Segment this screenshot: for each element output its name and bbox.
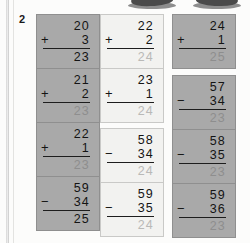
operator-sign: + [37, 141, 49, 155]
operand-bottom-row: +2 [101, 33, 156, 47]
operator-sign: − [173, 202, 185, 216]
operator-sign: + [101, 33, 113, 47]
operand-top: 23 [101, 73, 156, 87]
left-margin-rule-secondary [13, 0, 14, 243]
operand-bottom: 1 [218, 33, 226, 47]
answer-value[interactable]: 23 [173, 111, 228, 125]
operator-sign: − [101, 147, 113, 161]
problem-column-1: 20+32321+22322+12359−3425 [36, 15, 100, 231]
sum-rule [43, 102, 90, 103]
problem-cell[interactable]: 23+124 [100, 68, 164, 123]
operator-sign: − [37, 195, 49, 209]
exercise-number: 2 [19, 14, 25, 25]
operand-bottom-row: +3 [37, 33, 92, 47]
answer-value[interactable]: 23 [173, 219, 228, 233]
operand-bottom: 34 [74, 195, 90, 209]
sum-rule [179, 163, 226, 164]
sum-rule [179, 48, 226, 49]
sum-rule [107, 162, 154, 163]
answer-value[interactable]: 25 [37, 212, 92, 226]
operand-top: 21 [37, 73, 92, 87]
problem-cell[interactable]: 21+223 [36, 68, 100, 123]
operand-bottom: 1 [82, 141, 90, 155]
operand-bottom: 35 [210, 148, 226, 162]
operand-top: 58 [101, 133, 156, 147]
operand-bottom: 34 [210, 94, 226, 108]
operand-top: 59 [101, 187, 156, 201]
answer-value[interactable]: 23 [37, 104, 92, 118]
operand-bottom-row: +1 [173, 33, 228, 47]
answer-value[interactable]: 24 [101, 164, 156, 178]
answer-value[interactable]: 24 [101, 104, 156, 118]
operand-top: 22 [101, 19, 156, 33]
problem-cell[interactable]: 57−3423 [172, 75, 236, 130]
cut-off-artwork-strip [0, 0, 250, 9]
operator-sign: − [173, 148, 185, 162]
operand-bottom-row: +2 [37, 87, 92, 101]
left-margin-rule [6, 0, 9, 243]
operand-top: 57 [173, 80, 228, 94]
answer-value[interactable]: 23 [37, 158, 92, 172]
problem-cell[interactable]: 58−3523 [172, 129, 236, 184]
operand-bottom-row: −34 [173, 94, 228, 108]
operator-sign: − [101, 201, 113, 215]
operand-bottom: 2 [146, 33, 154, 47]
operand-bottom-row: −34 [101, 147, 156, 161]
answer-value[interactable]: 24 [101, 218, 156, 232]
sum-rule [43, 156, 90, 157]
operand-top: 24 [173, 19, 228, 33]
problem-cell[interactable]: 59−3623 [172, 183, 236, 238]
operand-bottom-row: +1 [101, 87, 156, 101]
operand-top: 22 [37, 127, 92, 141]
operand-bottom-row: −35 [101, 201, 156, 215]
operand-top: 59 [37, 181, 92, 195]
operand-bottom: 2 [82, 87, 90, 101]
operand-bottom: 3 [82, 33, 90, 47]
operand-bottom: 36 [210, 202, 226, 216]
problem-column-2: 22+22423+12458−342459−3524 [100, 15, 164, 237]
operator-sign: + [173, 33, 185, 47]
sum-rule [107, 102, 154, 103]
operand-bottom: 35 [138, 201, 154, 215]
operator-sign: − [173, 94, 185, 108]
operand-top: 58 [173, 134, 228, 148]
operand-bottom-row: −36 [173, 202, 228, 216]
sum-rule [179, 217, 226, 218]
answer-value[interactable]: 25 [173, 50, 228, 64]
worksheet-page: 2 20+32321+22322+12359−3425 22+22423+124… [0, 0, 250, 243]
operand-top: 20 [37, 19, 92, 33]
problem-cell[interactable]: 20+323 [36, 14, 100, 69]
answer-value[interactable]: 23 [37, 50, 92, 64]
operand-bottom: 34 [138, 147, 154, 161]
sum-rule [107, 216, 154, 217]
operand-top: 59 [173, 188, 228, 202]
sum-rule [179, 109, 226, 110]
sum-rule [43, 48, 90, 49]
operand-bottom: 1 [146, 87, 154, 101]
operator-sign: + [37, 33, 49, 47]
problem-cell[interactable]: 24+125 [172, 14, 236, 69]
operand-bottom-row: +1 [37, 141, 92, 155]
sum-rule [43, 210, 90, 211]
problem-cell[interactable]: 59−3425 [36, 176, 100, 231]
problem-column-3: 24+12557−342358−352359−3623 [172, 15, 236, 238]
problem-cell[interactable]: 59−3524 [100, 182, 164, 237]
operator-sign: + [101, 87, 113, 101]
operand-bottom-row: −34 [37, 195, 92, 209]
answer-value[interactable]: 24 [101, 50, 156, 64]
problem-cell[interactable]: 58−3424 [100, 128, 164, 183]
sum-rule [107, 48, 154, 49]
operand-bottom-row: −35 [173, 148, 228, 162]
problem-cell[interactable]: 22+123 [36, 122, 100, 177]
operator-sign: + [37, 87, 49, 101]
answer-value[interactable]: 23 [173, 165, 228, 179]
problem-cell[interactable]: 22+224 [100, 14, 164, 69]
